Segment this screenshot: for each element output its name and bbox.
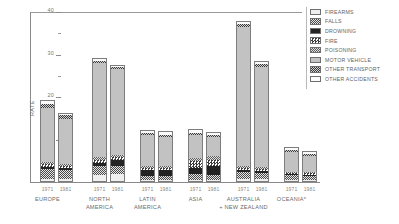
- y-axis-title: RATE: [29, 100, 35, 116]
- bar-segment: [111, 69, 124, 155]
- bar-segment: [189, 180, 202, 181]
- bar-segment: [41, 179, 54, 181]
- stacked-bar: [110, 65, 125, 182]
- bar-segment: [41, 169, 54, 180]
- bar-segment: [141, 180, 154, 181]
- y-tick-40: 40: [56, 12, 61, 13]
- bar-segment: [93, 63, 106, 157]
- poisoning-swatch: [310, 47, 321, 54]
- drowning-swatch: [310, 28, 321, 35]
- legend-label: FALLS: [325, 18, 342, 24]
- legend-item: DROWNING: [310, 26, 396, 36]
- bar-segment: [159, 180, 172, 181]
- falls-swatch: [310, 18, 321, 25]
- firearms-swatch: [310, 9, 321, 16]
- bar-segment: [303, 180, 316, 181]
- fire-swatch: [310, 37, 321, 44]
- bar-segment: [285, 180, 298, 181]
- legend-item: FIREARMS: [310, 7, 396, 17]
- y-tick-minor-25: [58, 76, 61, 77]
- stacked-bar: [58, 113, 73, 182]
- y-tick-label-40: 40: [48, 7, 54, 13]
- motor-vehicle-swatch: [310, 57, 321, 64]
- x-tick-label-year: 1981: [155, 186, 177, 192]
- group-label-line1: OCEANIA*: [257, 196, 327, 204]
- bar-segment: [93, 166, 106, 175]
- stacked-bar: [254, 61, 269, 182]
- y-tick-minor-35: [58, 33, 61, 34]
- bar-segment: [237, 172, 250, 179]
- y-tick-30: 30: [56, 55, 61, 56]
- stacked-bar: [302, 151, 317, 182]
- bar-segment: [303, 156, 316, 173]
- legend-item: POISONING: [310, 45, 396, 55]
- stacked-bar: [284, 147, 299, 182]
- legend-item: OTHER TRANSPORT: [310, 65, 396, 75]
- y-tick-0: 0: [56, 182, 61, 183]
- other-transport-swatch: [310, 66, 321, 73]
- legend-item: FIRE: [310, 36, 396, 46]
- bar-segment: [111, 174, 124, 181]
- stacked-bar: [40, 100, 55, 182]
- x-axis-group-label: OCEANIA*: [257, 196, 327, 204]
- legend-label: OTHER ACCIDENTS: [325, 76, 378, 82]
- legend-label: DROWNING: [325, 28, 356, 34]
- bar-segment: [207, 137, 220, 156]
- bar-segment: [285, 152, 298, 172]
- legend-item: MOTOR VEHICLE: [310, 55, 396, 65]
- legend-label: POISONING: [325, 47, 357, 53]
- stacked-bar: [206, 132, 221, 182]
- bar-segment: [255, 179, 268, 181]
- bar-segment: [59, 179, 72, 181]
- bar-segment: [207, 180, 220, 181]
- stacked-bar: [188, 129, 203, 182]
- legend-label: FIRE: [325, 38, 338, 44]
- bar-segment: [255, 67, 268, 167]
- legend-item: FALLS: [310, 17, 396, 27]
- bar-segment: [207, 166, 220, 175]
- legend-label: FIREARMS: [325, 9, 354, 15]
- stacked-bar: [236, 21, 251, 182]
- stacked-bar: [92, 58, 107, 182]
- group-label-line2: AMERICA: [113, 204, 183, 212]
- legend-item: OTHER ACCIDENTS: [310, 74, 396, 84]
- bar-segment: [59, 170, 72, 179]
- x-tick-label-year: 1981: [251, 186, 273, 192]
- group-label-line2: + NEW ZEALAND: [209, 204, 279, 212]
- y-tick-label-20: 20: [48, 92, 54, 98]
- bar-segment: [237, 27, 250, 165]
- x-tick-label-year: 1981: [203, 186, 225, 192]
- legend-label: OTHER TRANSPORT: [325, 66, 380, 72]
- stacked-bar: [158, 131, 173, 182]
- legend: FIREARMSFALLSDROWNINGFIREPOISONINGMOTOR …: [310, 7, 396, 84]
- bar-segment: [59, 119, 72, 164]
- legend-divider: [306, 7, 307, 89]
- bar-segment: [189, 135, 202, 157]
- bar-segment: [93, 175, 106, 181]
- legend-label: MOTOR VEHICLE: [325, 57, 371, 63]
- x-tick-label-year: 1981: [107, 186, 129, 192]
- bar-segment: [141, 135, 154, 166]
- bar-segment: [159, 137, 172, 166]
- bar-segment: [237, 179, 250, 181]
- x-axis-line: [30, 182, 320, 183]
- x-tick-label-year: 1981: [55, 186, 77, 192]
- x-tick-label-year: 1981: [299, 186, 321, 192]
- chart-page: 40 30 20 10 0 RATE 19711981EUROPE1971198…: [0, 0, 399, 224]
- bar-segment: [41, 108, 54, 162]
- bar-segment: [111, 166, 124, 174]
- bar-segment: [189, 168, 202, 175]
- y-tick-20: 20: [56, 97, 61, 98]
- stacked-bar: [140, 130, 155, 182]
- other-accidents-swatch: [310, 76, 321, 83]
- y-tick-label-30: 30: [48, 50, 54, 56]
